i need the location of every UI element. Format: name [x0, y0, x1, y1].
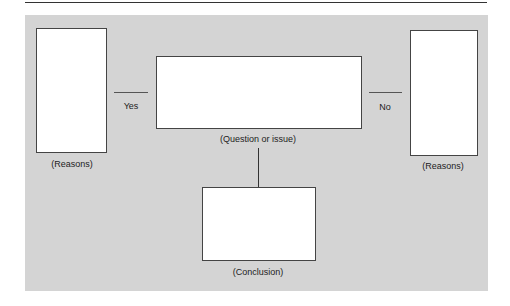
- reasons-right-label: (Reasons): [422, 161, 464, 171]
- reasons-left-label: (Reasons): [51, 159, 93, 169]
- no-label: No: [379, 102, 391, 112]
- reasons-right-box: [410, 30, 478, 156]
- conclusion-connector-line: [258, 148, 259, 187]
- conclusion-label: (Conclusion): [233, 267, 284, 277]
- reasons-left-box: [36, 28, 107, 153]
- question-label: (Question or issue): [220, 134, 296, 144]
- top-rule: [25, 2, 487, 3]
- no-connector-line: [369, 92, 402, 93]
- question-box: [156, 56, 362, 129]
- conclusion-box: [202, 187, 316, 261]
- yes-label: Yes: [124, 101, 139, 111]
- yes-connector-line: [114, 92, 148, 93]
